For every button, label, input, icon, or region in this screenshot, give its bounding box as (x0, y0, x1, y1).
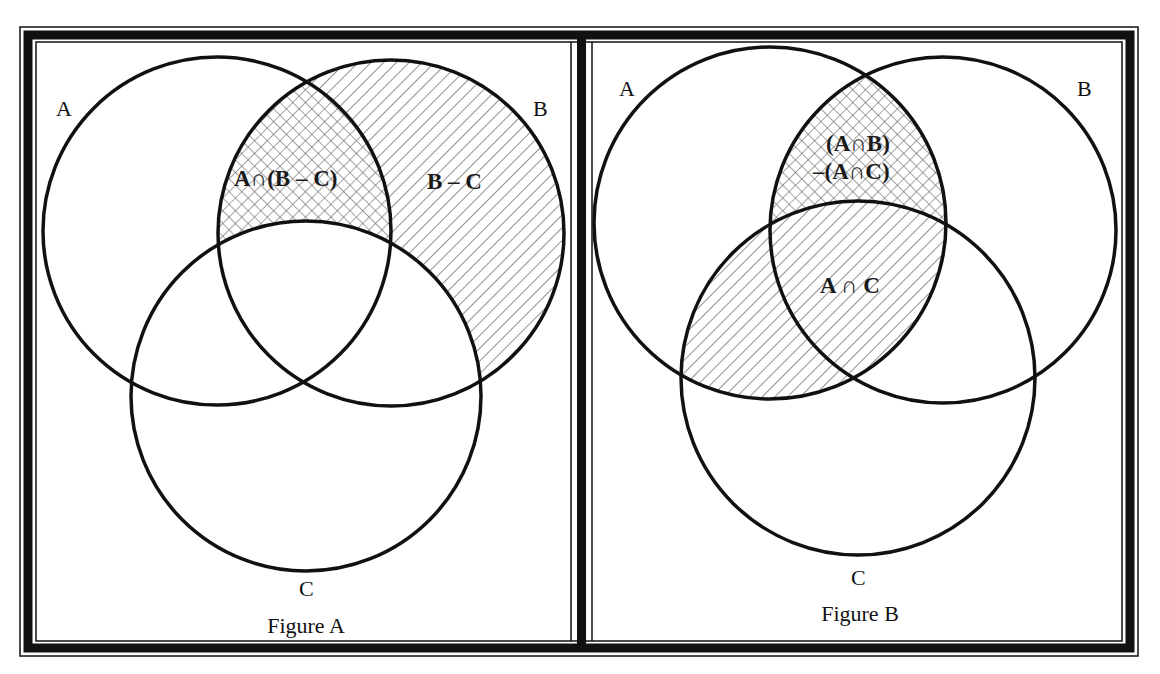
outer-frame (20, 27, 1138, 656)
region-label-a-intersect-b-minus-c: A∩(B – C) (234, 166, 337, 191)
venn-diagram-figure: A B C A∩(B – C) B – C Figure A A B C (A∩… (0, 0, 1160, 674)
figure-b: A B C (A∩B) –(A∩C) A ∩ C Figure B (594, 47, 1116, 626)
caption-figure-a: Figure A (267, 613, 345, 638)
region-label-a-intersect-b: (A∩B) (826, 131, 890, 156)
label-c: C (299, 576, 314, 601)
caption-figure-b: Figure B (821, 601, 899, 626)
label-a: A (56, 96, 72, 121)
figure-a: A B C A∩(B – C) B – C Figure A (43, 57, 564, 638)
label-b: B (533, 96, 548, 121)
venn-diagram-canvas: A B C A∩(B – C) B – C Figure A A B C (A∩… (0, 0, 1160, 674)
label-b: B (1077, 76, 1092, 101)
region-label-b-minus-c: B – C (427, 169, 482, 194)
region-label-a-intersect-c: A ∩ C (820, 273, 880, 298)
label-a: A (619, 76, 635, 101)
region-label-minus-a-intersect-c: –(A∩C) (812, 159, 890, 184)
label-c: C (851, 565, 866, 590)
